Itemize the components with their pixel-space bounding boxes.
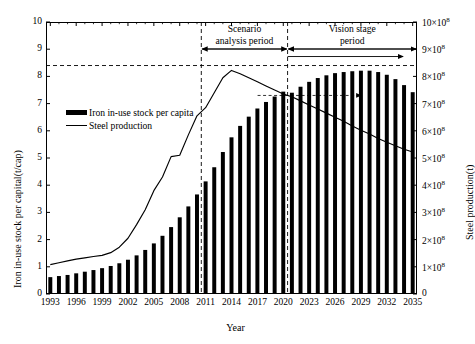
y-tick-label-right-8: 8×108: [422, 71, 445, 83]
y-tick-label-right-10: 10×108: [422, 17, 450, 29]
y-tick-right-mantissa: 2×10: [422, 236, 442, 246]
y-tick-label-left-9: 9: [16, 44, 42, 54]
annotation-vision-stage-period: Vision stageperiod: [297, 23, 407, 46]
bar-2000: [109, 266, 113, 294]
y-tick-label-right-0: 0: [422, 289, 427, 299]
bar-2010: [195, 194, 199, 294]
y-tick-label-right-1: 1×108: [422, 262, 445, 274]
bar-2017: [255, 108, 259, 294]
bar-1993: [48, 277, 52, 294]
bar-2029: [359, 71, 363, 294]
bar-2020: [281, 92, 285, 294]
y-tick-right-exponent: 8: [442, 98, 446, 106]
bar-2031: [376, 72, 380, 294]
bar-2001: [117, 263, 121, 294]
y-axis-title-left: Iron in-use stock per capital(t/cap): [12, 150, 23, 288]
y-tick-right-mantissa: 3×10: [422, 209, 442, 219]
bar-2030: [368, 71, 372, 294]
bar-2025: [324, 75, 328, 294]
bar-2008: [178, 217, 182, 294]
bar-2018: [264, 102, 268, 294]
annotation-scenario-analysis-period-line1: Scenario: [189, 23, 299, 35]
y-tick-label-left-0: 0: [16, 289, 42, 299]
bar-2004: [143, 250, 147, 294]
annotation-scenario-analysis-period: Scenarioanalysis period: [189, 23, 299, 46]
bar-2014: [230, 137, 234, 294]
bar-2023: [307, 82, 311, 294]
y-axis-title-right: Steel production(t): [464, 165, 475, 240]
y-tick-right-exponent: 8: [442, 179, 446, 187]
annotation-vision-stage-period-line1: Vision stage: [297, 23, 407, 35]
annotation-vision-stage-period-line2: period: [297, 35, 407, 47]
legend-item-bar: Iron in-use stock per capita: [66, 106, 193, 119]
bar-2012: [212, 167, 216, 294]
bar-1996: [74, 273, 78, 294]
y-tick-label-right-6: 6×108: [422, 126, 445, 138]
y-tick-label-right-7: 7×108: [422, 99, 445, 111]
y-tick-label-right-4: 4×108: [422, 180, 445, 192]
y-tick-right-exponent: 8: [442, 152, 446, 160]
bar-2006: [160, 236, 164, 294]
legend-line-swatch: [66, 125, 87, 126]
annotation-scenario-analysis-period-line2: analysis period: [189, 35, 299, 47]
legend-label-bar: Iron in-use stock per capita: [89, 107, 193, 118]
bar-1999: [100, 268, 104, 294]
bar-1995: [66, 275, 70, 294]
y-tick-right-mantissa: 7×10: [422, 100, 442, 110]
bar-1994: [57, 276, 61, 294]
bar-2022: [299, 87, 303, 294]
legend-item-line: Steel production: [66, 119, 193, 132]
bar-2035: [411, 92, 415, 294]
bar-2009: [186, 206, 190, 294]
x-tick-label-2035: 2035: [397, 298, 429, 308]
y-tick-right-mantissa: 1×10: [422, 263, 442, 273]
y-tick-label-right-5: 5×108: [422, 153, 445, 165]
y-tick-right-exponent: 8: [442, 206, 446, 214]
bar-2013: [221, 152, 225, 294]
y-tick-right-exponent: 8: [446, 16, 450, 24]
bar-2034: [402, 85, 406, 294]
x-axis-title: Year: [0, 322, 471, 333]
legend-bar-swatch: [66, 110, 87, 115]
y-tick-right-exponent: 8: [442, 234, 446, 242]
bar-2019: [273, 97, 277, 294]
y-tick-label-right-3: 3×108: [422, 207, 445, 219]
y-tick-label-left-7: 7: [16, 99, 42, 109]
y-tick-right-mantissa: 9×10: [422, 45, 442, 55]
bar-2021: [290, 93, 294, 294]
y-tick-label-right-2: 2×108: [422, 235, 445, 247]
y-tick-right-mantissa: 10×10: [422, 18, 446, 28]
bar-2027: [342, 72, 346, 294]
bar-2003: [135, 255, 139, 294]
bar-2033: [393, 79, 397, 294]
bar-1998: [91, 270, 95, 294]
y-tick-label-left-10: 10: [16, 17, 42, 27]
y-tick-right-mantissa: 8×10: [422, 73, 442, 83]
y-tick-label-left-6: 6: [16, 126, 42, 136]
y-tick-right-exponent: 8: [442, 125, 446, 133]
legend-label-line: Steel production: [89, 120, 152, 131]
y-tick-label-right-9: 9×108: [422, 44, 445, 56]
bar-2015: [238, 126, 242, 294]
y-tick-right-mantissa: 6×10: [422, 127, 442, 137]
bar-2032: [385, 75, 389, 294]
bar-2028: [350, 71, 354, 294]
bar-2016: [247, 117, 251, 294]
y-tick-right-mantissa: 4×10: [422, 181, 442, 191]
y-tick-right-exponent: 8: [442, 70, 446, 78]
bar-2011: [204, 181, 208, 294]
bar-2007: [169, 227, 173, 294]
bar-2024: [316, 78, 320, 294]
bar-2005: [152, 243, 156, 294]
chart-legend: Iron in-use stock per capita Steel produ…: [66, 106, 193, 132]
bar-2026: [333, 73, 337, 294]
y-tick-right-exponent: 8: [442, 261, 446, 269]
y-tick-right-exponent: 8: [442, 43, 446, 51]
bar-1997: [83, 272, 87, 294]
y-tick-label-left-8: 8: [16, 71, 42, 81]
bar-2002: [126, 260, 130, 294]
y-tick-right-mantissa: 5×10: [422, 154, 442, 164]
